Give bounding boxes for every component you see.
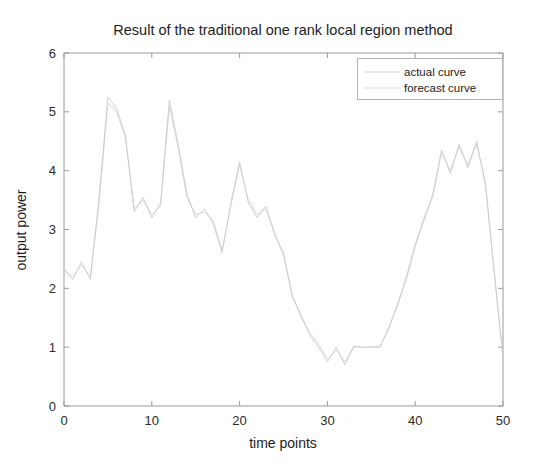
figure-container: Result of the traditional one rank local… — [0, 0, 539, 473]
x-axis-label: time points — [249, 435, 317, 451]
y-tick-label: 2 — [49, 281, 56, 296]
legend[interactable]: actual curve forecast curve — [358, 59, 503, 100]
x-tick-label: 10 — [145, 413, 159, 428]
x-tick-label: 40 — [408, 413, 422, 428]
y-tick-label: 6 — [49, 46, 56, 61]
line-chart: Result of the traditional one rank local… — [0, 0, 539, 473]
y-tick-label: 3 — [49, 222, 56, 237]
legend-label-forecast-curve: forecast curve — [404, 82, 476, 94]
y-tick-label: 1 — [49, 340, 56, 355]
x-tick-label: 0 — [60, 413, 67, 428]
y-axis-label: output power — [13, 189, 29, 270]
x-tick-label: 20 — [232, 413, 246, 428]
y-tick-label: 5 — [49, 104, 56, 119]
y-tick-label: 0 — [49, 399, 56, 414]
y-tick-label: 4 — [49, 163, 56, 178]
x-tick-label: 50 — [496, 413, 510, 428]
legend-label-actual-curve: actual curve — [404, 66, 466, 78]
x-tick-label: 30 — [320, 413, 334, 428]
chart-title: Result of the traditional one rank local… — [113, 22, 452, 38]
